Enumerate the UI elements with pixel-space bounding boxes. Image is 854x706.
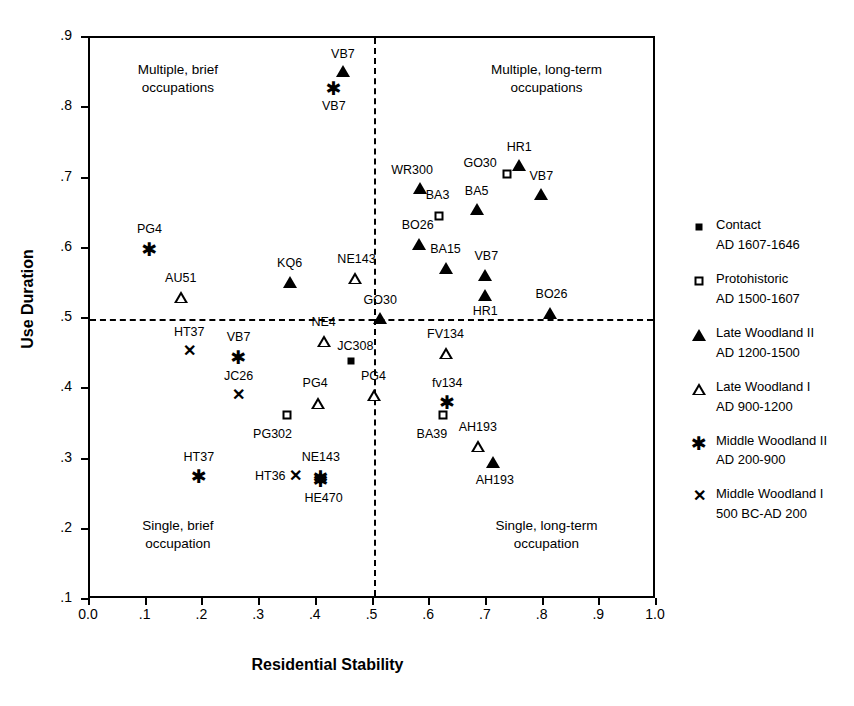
legend-item-date: AD 1607-1646 xyxy=(716,238,854,253)
data-point-label: BA39 xyxy=(417,427,448,441)
y-tick xyxy=(81,317,88,319)
data-point-label: HT37 xyxy=(174,325,205,339)
data-point-label: JC308 xyxy=(337,339,373,353)
data-point[interactable] xyxy=(438,410,447,419)
filled-triangle-marker xyxy=(692,329,706,341)
data-point[interactable] xyxy=(347,358,354,365)
filled-triangle-marker xyxy=(470,203,484,215)
x-tick xyxy=(88,598,90,605)
data-point[interactable] xyxy=(283,276,297,288)
asterisk-marker: ✱ xyxy=(326,80,342,96)
legend-item[interactable]: ✕Middle Woodland I500 BC-AD 200 xyxy=(690,487,854,522)
x-marker: ✕ xyxy=(232,388,246,402)
asterisk-marker: ✱ xyxy=(231,349,247,365)
filled-triangle-marker xyxy=(336,65,350,77)
y-tick xyxy=(81,528,88,530)
y-tick xyxy=(81,247,88,249)
data-point[interactable]: ✱ xyxy=(313,472,329,488)
data-point[interactable] xyxy=(478,269,492,281)
asterisk-marker: ✱ xyxy=(142,241,158,257)
filled-triangle-marker xyxy=(283,276,297,288)
data-point[interactable] xyxy=(311,397,325,409)
data-point-label: FV134 xyxy=(427,327,464,341)
asterisk-marker: ✱ xyxy=(191,468,207,484)
quadrant-label: Multiple, long-term occupations xyxy=(471,61,621,97)
x-marker: ✕ xyxy=(182,344,196,358)
legend-item[interactable]: ProtohistoricAD 1500-1607 xyxy=(690,272,854,307)
data-point[interactable]: ✱ xyxy=(231,349,247,365)
data-point[interactable] xyxy=(317,335,331,347)
data-point[interactable]: ✱ xyxy=(142,241,158,257)
data-point[interactable] xyxy=(439,262,453,274)
data-point[interactable]: ✱ xyxy=(191,468,207,484)
data-point[interactable] xyxy=(412,238,426,250)
y-tick xyxy=(81,387,88,389)
data-point[interactable] xyxy=(502,170,511,179)
data-point[interactable]: ✕ xyxy=(232,388,246,402)
y-tick-label: .3 xyxy=(38,449,72,465)
x-tick xyxy=(315,598,317,605)
y-tick-label: .2 xyxy=(38,519,72,535)
x-tick xyxy=(258,598,260,605)
legend-item[interactable]: ✱Middle Woodland IIAD 200-900 xyxy=(690,434,854,469)
data-point[interactable]: ✱ xyxy=(439,394,455,410)
x-tick-label: 0.0 xyxy=(68,606,108,622)
data-point[interactable] xyxy=(478,289,492,301)
data-point[interactable] xyxy=(486,456,500,468)
legend: ContactAD 1607-1646ProtohistoricAD 1500-… xyxy=(690,218,854,541)
y-axis-title: Use Duration xyxy=(19,209,37,389)
open-triangle-marker xyxy=(311,397,325,409)
data-point[interactable] xyxy=(435,212,444,221)
y-tick xyxy=(81,458,88,460)
x-tick xyxy=(145,598,147,605)
data-point-label: VB7 xyxy=(530,169,554,183)
open-square-marker xyxy=(438,410,447,419)
data-point-label: BO26 xyxy=(402,218,434,232)
data-point[interactable]: ✕ xyxy=(289,469,303,483)
x-tick xyxy=(655,598,657,605)
data-point[interactable] xyxy=(471,440,485,452)
y-tick-label: .9 xyxy=(38,27,72,43)
data-point[interactable]: ✱ xyxy=(326,80,342,96)
filled-triangle-marker xyxy=(512,159,526,171)
data-point-label: PG4 xyxy=(137,222,162,236)
x-tick xyxy=(485,598,487,605)
x-tick-label: .2 xyxy=(181,606,221,622)
x-tick-label: .4 xyxy=(295,606,335,622)
data-point[interactable] xyxy=(174,291,188,303)
y-tick-label: .8 xyxy=(38,97,72,113)
data-point-label: BA15 xyxy=(430,242,461,256)
data-point[interactable] xyxy=(543,307,557,319)
open-triangle-marker xyxy=(439,347,453,359)
data-point-label: WR300 xyxy=(391,163,433,177)
data-point-label: BA5 xyxy=(465,184,489,198)
chart-root: Use Duration Residential Stability 0.0.1… xyxy=(0,0,854,706)
data-point-label: VB7 xyxy=(475,249,499,263)
y-tick xyxy=(81,36,88,38)
open-square-marker xyxy=(695,276,704,285)
x-tick xyxy=(372,598,374,605)
legend-item[interactable]: Late Woodland IIAD 1200-1500 xyxy=(690,326,854,361)
x-tick-label: .1 xyxy=(125,606,165,622)
data-point[interactable]: ✕ xyxy=(182,344,196,358)
y-tick-label: .6 xyxy=(38,238,72,254)
legend-item[interactable]: ContactAD 1607-1646 xyxy=(690,218,854,253)
data-point[interactable] xyxy=(348,272,362,284)
data-point[interactable] xyxy=(512,159,526,171)
y-tick-label: .5 xyxy=(38,308,72,324)
data-point[interactable] xyxy=(336,65,350,77)
filled-triangle-marker xyxy=(543,307,557,319)
x-tick-label: .3 xyxy=(238,606,278,622)
x-tick xyxy=(201,598,203,605)
data-point[interactable] xyxy=(534,188,548,200)
open-triangle-marker xyxy=(471,440,485,452)
data-point[interactable] xyxy=(367,389,381,401)
data-point[interactable] xyxy=(439,347,453,359)
data-point[interactable] xyxy=(373,312,387,324)
legend-item[interactable]: Late Woodland IAD 900-1200 xyxy=(690,380,854,415)
x-tick-label: 1.0 xyxy=(635,606,675,622)
x-tick-label: .9 xyxy=(578,606,618,622)
data-point[interactable] xyxy=(470,203,484,215)
data-point-label: AH193 xyxy=(459,420,497,434)
data-point[interactable] xyxy=(283,410,292,419)
